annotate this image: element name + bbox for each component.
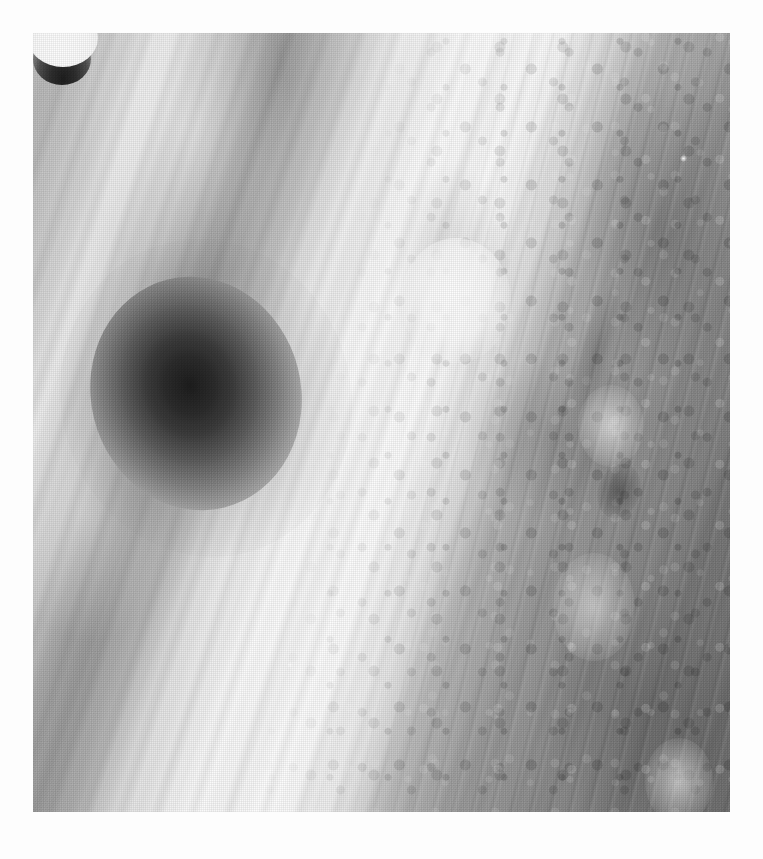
- bright-speck-lower: [287, 662, 293, 668]
- bright-oval-middle: [553, 553, 635, 661]
- bleed-through-ghost-text: [52, 822, 712, 834]
- bright-speck-upper: [680, 155, 687, 162]
- crescent-bright-halo: [401, 238, 511, 363]
- dark-crescent-feature: [33, 33, 91, 85]
- scanned-page: [0, 0, 763, 859]
- jupiter-cloud-bands-photograph: [33, 33, 730, 812]
- bright-oval-upper: [578, 385, 644, 467]
